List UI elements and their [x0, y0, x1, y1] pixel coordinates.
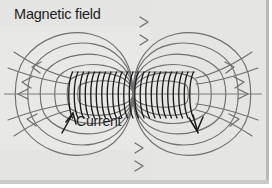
current-label: Current — [76, 113, 121, 129]
panel-border-right — [266, 0, 269, 183]
magnetic-field-figure: Magnetic field Current — [0, 0, 272, 188]
magnetic-field-label: Magnetic field — [14, 6, 101, 22]
figure-canvas — [0, 0, 272, 188]
panel-border-bottom — [0, 180, 269, 184]
